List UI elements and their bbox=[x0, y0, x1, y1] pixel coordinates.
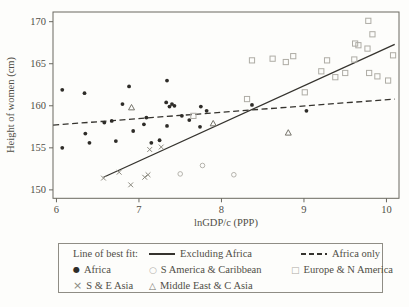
data-point-africa bbox=[83, 132, 87, 136]
data-point-africa bbox=[102, 121, 106, 125]
data-point-europe-n-america bbox=[319, 69, 324, 74]
x-tick-label: 7 bbox=[136, 204, 141, 215]
data-point-europe-n-america bbox=[270, 56, 275, 61]
legend-label-africa-only: Africa only bbox=[332, 247, 380, 261]
data-point-africa bbox=[142, 122, 146, 126]
open-circle-icon: ○ bbox=[149, 263, 157, 277]
data-point-s-e-asia bbox=[147, 147, 152, 152]
data-point-europe-n-america bbox=[283, 59, 288, 64]
data-point-s-america-caribbean bbox=[232, 172, 237, 177]
legend-item-africa: ● Africa bbox=[73, 263, 111, 277]
legend: Line of best fit: Excluding Africa Afric… bbox=[58, 243, 383, 293]
data-point-africa bbox=[173, 104, 177, 108]
legend-label-middle-east: Middle East & C Asia bbox=[160, 279, 253, 293]
y-tick-label: 170 bbox=[30, 16, 46, 27]
data-point-europe-n-america bbox=[244, 96, 249, 101]
y-axis-ticks: 150155160165170 bbox=[30, 16, 53, 195]
fit-lines bbox=[53, 44, 395, 177]
dashed-line-icon bbox=[301, 253, 327, 255]
legend-item-africa-only: Africa only bbox=[301, 247, 380, 261]
data-point-africa bbox=[127, 85, 131, 89]
data-point-middle-east-c-asia bbox=[210, 120, 216, 125]
data-point-africa bbox=[180, 114, 184, 118]
data-point-africa bbox=[83, 91, 87, 95]
data-point-africa bbox=[158, 138, 162, 142]
data-point-s-america-caribbean bbox=[200, 163, 205, 168]
data-point-africa bbox=[60, 146, 64, 150]
data-point-africa bbox=[305, 109, 309, 113]
data-point-africa bbox=[250, 103, 254, 107]
data-points bbox=[60, 18, 395, 187]
data-point-africa bbox=[131, 129, 135, 133]
legend-label-s-america: S America & Caribbean bbox=[161, 263, 262, 277]
data-point-africa bbox=[121, 102, 125, 106]
data-point-europe-n-america bbox=[367, 70, 372, 75]
legend-label-europe: Europe & N America bbox=[304, 263, 394, 277]
data-point-europe-n-america bbox=[375, 74, 380, 79]
data-point-europe-n-america bbox=[302, 90, 307, 95]
data-point-europe-n-america bbox=[291, 54, 296, 59]
legend-item-europe: □ Europe & N America bbox=[291, 263, 393, 277]
data-point-s-e-asia bbox=[101, 176, 106, 181]
open-triangle-icon: △ bbox=[149, 279, 156, 293]
data-point-middle-east-c-asia bbox=[285, 130, 291, 135]
data-point-s-e-asia bbox=[142, 175, 147, 180]
data-point-europe-n-america bbox=[366, 18, 371, 23]
data-point-s-e-asia bbox=[128, 182, 133, 187]
data-point-africa bbox=[144, 116, 148, 120]
data-point-europe-n-america bbox=[365, 46, 370, 51]
x-tick-label: 6 bbox=[54, 204, 59, 215]
data-point-europe-n-america bbox=[370, 32, 375, 37]
filled-circle-icon: ● bbox=[73, 263, 80, 277]
legend-label-se-asia: S & E Asia bbox=[86, 279, 133, 293]
y-tick-label: 160 bbox=[30, 100, 46, 111]
legend-label-excluding-africa: Excluding Africa bbox=[180, 247, 252, 261]
legend-item-s-america: ○ S America & Caribbean bbox=[149, 263, 261, 277]
data-point-africa bbox=[149, 141, 153, 145]
legend-label-africa: Africa bbox=[84, 263, 111, 277]
data-point-s-e-asia bbox=[146, 172, 151, 177]
x-tick-label: 10 bbox=[381, 204, 392, 215]
y-axis-label: Height of women (cm) bbox=[5, 57, 17, 153]
x-tick-label: 9 bbox=[301, 204, 306, 215]
plot-frame bbox=[53, 12, 399, 198]
y-tick-label: 165 bbox=[30, 58, 46, 69]
data-point-europe-n-america bbox=[333, 75, 338, 80]
height-vs-gdp-figure: 678910 150155160165170 lnGDP/c (PPP) Hei… bbox=[0, 0, 409, 307]
legend-item-middle-east: △ Middle East & C Asia bbox=[149, 279, 253, 293]
solid-line-icon bbox=[149, 253, 175, 255]
data-point-europe-n-america bbox=[249, 58, 254, 63]
data-point-africa bbox=[205, 109, 209, 113]
data-point-europe-n-america bbox=[324, 58, 329, 63]
x-axis-ticks: 678910 bbox=[54, 198, 392, 215]
data-point-africa bbox=[199, 105, 203, 109]
scatter-plot: 678910 150155160165170 lnGDP/c (PPP) Hei… bbox=[0, 0, 409, 236]
data-point-africa bbox=[110, 119, 114, 123]
legend-item-excluding-africa: Excluding Africa bbox=[149, 247, 252, 261]
data-point-europe-n-america bbox=[390, 53, 395, 58]
data-point-africa bbox=[165, 124, 169, 128]
y-tick-label: 150 bbox=[30, 184, 46, 195]
open-square-icon: □ bbox=[291, 263, 300, 277]
data-point-europe-n-america bbox=[356, 43, 361, 48]
data-point-middle-east-c-asia bbox=[129, 104, 135, 109]
data-point-europe-n-america bbox=[343, 70, 348, 75]
data-point-s-e-asia bbox=[159, 145, 164, 150]
data-point-africa bbox=[165, 79, 169, 83]
y-tick-label: 155 bbox=[30, 142, 46, 153]
x-axis-label: lnGDP/c (PPP) bbox=[194, 217, 258, 229]
data-point-africa bbox=[60, 88, 64, 92]
data-point-africa bbox=[198, 125, 202, 129]
x-cross-icon: × bbox=[73, 279, 82, 293]
legend-fit-caption: Line of best fit: bbox=[73, 247, 138, 261]
legend-item-se-asia: × S & E Asia bbox=[73, 279, 133, 293]
data-point-europe-n-america bbox=[386, 78, 391, 83]
data-point-africa bbox=[114, 139, 118, 143]
data-point-s-america-caribbean bbox=[178, 172, 183, 177]
data-point-europe-n-america bbox=[353, 41, 358, 46]
legend-fit-caption-text: Line of best fit: bbox=[73, 247, 138, 261]
x-tick-label: 8 bbox=[219, 204, 224, 215]
fit-line-solid bbox=[103, 44, 394, 177]
data-point-africa bbox=[164, 101, 168, 105]
data-point-africa bbox=[88, 141, 92, 145]
